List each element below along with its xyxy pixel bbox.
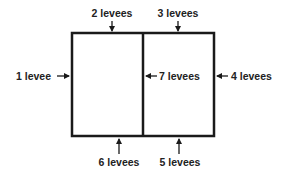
label-left: 1 levee [16, 70, 51, 82]
levee-diagram: 2 levees 3 levees 1 levee 7 levees 4 lev… [0, 0, 288, 179]
label-right: 4 levees [231, 70, 272, 82]
label-bottom-right: 5 levees [160, 156, 201, 168]
label-middle: 7 levees [159, 70, 200, 82]
label-top-right: 3 levees [158, 7, 199, 19]
label-top-left: 2 levees [92, 7, 133, 19]
label-bottom-left: 6 levees [99, 156, 140, 168]
